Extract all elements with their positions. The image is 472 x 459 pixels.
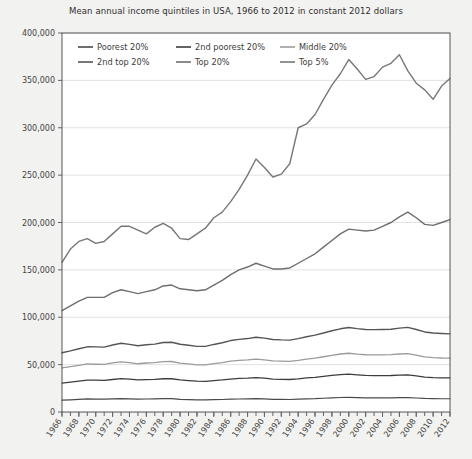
x-axis-tick-label: 2004 [365, 417, 384, 439]
x-axis-tick-label: 1996 [298, 417, 317, 439]
x-axis-tick-label: 2006 [382, 417, 401, 439]
y-axis-tick-label: 50,000 [27, 361, 55, 370]
legend-label: Top 20% [194, 57, 230, 67]
x-axis-tick-label: 1988 [230, 417, 249, 439]
x-axis-tick-label: 1986 [213, 417, 232, 439]
chart-canvas: 050,000100,000150,000200,000250,000300,0… [0, 0, 472, 459]
x-axis-tick-label: 2010 [416, 417, 435, 439]
chart-figure: Mean annual income quintiles in USA, 196… [0, 0, 472, 459]
y-axis-tick-label: 350,000 [22, 76, 55, 85]
legend-label: 2nd poorest 20% [195, 42, 265, 52]
x-axis-tick-label: 2002 [348, 417, 367, 439]
legend-label: Top 5% [298, 57, 329, 67]
y-axis-tick-label: 300,000 [22, 124, 55, 133]
x-axis-tick-label: 1984 [196, 417, 215, 439]
x-axis-tick-label: 1966 [45, 417, 64, 439]
x-axis-ticks: 1966196819701972197419761978198019821984… [45, 412, 452, 439]
x-axis-tick-label: 1998 [315, 417, 334, 439]
x-axis-tick-label: 1976 [129, 417, 148, 439]
y-axis-ticks: 050,000100,000150,000200,000250,000300,0… [22, 29, 62, 417]
x-axis-tick-label: 2012 [433, 417, 452, 439]
x-axis-tick-label: 1980 [163, 417, 182, 439]
y-axis-tick-label: 400,000 [22, 29, 55, 38]
y-axis-tick-label: 150,000 [22, 266, 55, 275]
x-axis-tick-label: 1970 [78, 417, 97, 439]
x-axis-tick-label: 2008 [399, 417, 418, 439]
x-axis-tick-label: 1972 [95, 417, 114, 439]
y-axis-tick-label: 250,000 [22, 171, 55, 180]
y-axis-tick-label: 0 [50, 408, 55, 417]
y-axis-tick-label: 200,000 [22, 219, 55, 228]
x-axis-tick-label: 1990 [247, 417, 266, 439]
legend-label: Middle 20% [299, 42, 347, 52]
x-axis-tick-label: 1978 [146, 417, 165, 439]
x-axis-tick-label: 1974 [112, 417, 131, 439]
legend-label: Poorest 20% [97, 42, 148, 52]
y-axis-tick-label: 100,000 [22, 313, 55, 322]
legend-label: 2nd top 20% [97, 57, 150, 67]
x-axis-tick-label: 1992 [264, 417, 283, 439]
x-axis-tick-label: 2000 [331, 417, 350, 439]
x-axis-tick-label: 1968 [61, 417, 80, 439]
x-axis-tick-label: 1994 [281, 417, 300, 439]
x-axis-tick-label: 1982 [180, 417, 199, 439]
